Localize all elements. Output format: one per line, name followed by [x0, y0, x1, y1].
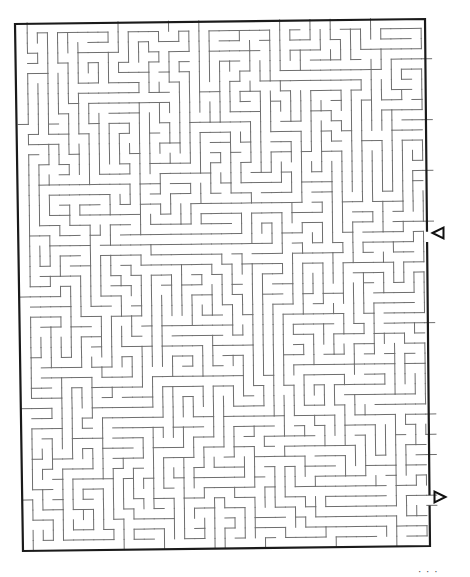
maze-walls	[18, 19, 437, 551]
entrance-arrow-icon	[433, 228, 444, 239]
maze-wall-lines	[18, 19, 437, 551]
exit-arrow-icon	[435, 492, 446, 503]
page-number: · · ·	[418, 566, 439, 577]
